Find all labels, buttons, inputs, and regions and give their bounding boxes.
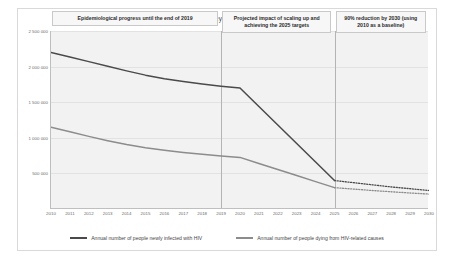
- panel-target: 90% reduction by 2030 (using 2010 as a b…: [336, 11, 427, 33]
- x-axis-tick-label: 2018: [197, 211, 207, 216]
- x-axis-tick-label: 2027: [367, 211, 377, 216]
- x-axis-tick-label: 2015: [141, 211, 151, 216]
- legend-label: Annual number of people newly infected w…: [91, 235, 202, 241]
- series-line-solid: [51, 127, 335, 188]
- y-axis-tick-label: 2 000 000: [28, 64, 48, 69]
- plot-area: 2 500 0002 000 0001 500 0001 000 000500 …: [50, 31, 428, 209]
- legend-label: Annual number of people dying from HIV-r…: [257, 235, 384, 241]
- legend-item[interactable]: Annual number of people newly infected w…: [70, 235, 202, 241]
- x-axis-tick-label: 2030: [424, 211, 434, 216]
- x-axis-tick-label: 2020: [235, 211, 245, 216]
- x-axis-tick-label: 2026: [349, 211, 359, 216]
- x-axis-tick-label: 2019: [216, 211, 226, 216]
- x-axis-tick-label: 2012: [84, 211, 94, 216]
- chart-container: Progress required to reach key 2025 and …: [17, 8, 437, 251]
- series-line-solid: [51, 52, 335, 180]
- legend-item[interactable]: Annual number of people dying from HIV-r…: [236, 235, 384, 241]
- y-axis-tick-label: 1 000 000: [28, 135, 48, 140]
- x-axis-tick-label: 2023: [292, 211, 302, 216]
- legend-swatch: [70, 237, 87, 239]
- y-axis-tick-label: 1 500 000: [28, 100, 48, 105]
- panel-historical: Epidemiological progress until the end o…: [52, 11, 218, 26]
- y-axis-tick-label: 500 000: [32, 171, 48, 176]
- legend-swatch: [236, 237, 253, 239]
- x-axis-tick-label: 2011: [65, 211, 74, 216]
- x-axis-tick-label: 2024: [311, 211, 321, 216]
- x-axis-tick-label: 2022: [273, 211, 283, 216]
- x-axis-tick-label: 2010: [46, 211, 56, 216]
- x-axis-tick-label: 2025: [330, 211, 340, 216]
- x-axis-tick-label: 2029: [405, 211, 415, 216]
- y-axis-tick-label: 2 500 000: [28, 29, 48, 34]
- series-lines: [51, 31, 429, 209]
- chart-legend: Annual number of people newly infected w…: [18, 235, 436, 241]
- x-axis-tick-label: 2016: [160, 211, 170, 216]
- x-axis-tick-label: 2021: [254, 211, 264, 216]
- x-axis-tick-label: 2028: [386, 211, 396, 216]
- x-axis-tick-label: 2013: [103, 211, 113, 216]
- x-axis-tick-label: 2014: [122, 211, 132, 216]
- panel-projection: Projected impact of scaling up and achie…: [222, 11, 331, 33]
- x-axis-tick-label: 2017: [178, 211, 188, 216]
